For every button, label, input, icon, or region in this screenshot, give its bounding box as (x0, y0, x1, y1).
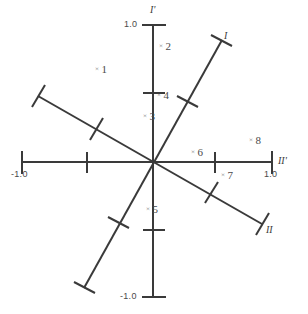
point-label-4: 4 (163, 89, 169, 101)
cross-icon: × (95, 65, 99, 73)
cross-icon: × (249, 136, 253, 144)
tick-diagonal-i-positive-end (211, 35, 232, 46)
axis-value-right: 1.0 (264, 169, 277, 179)
point-marker-5: ×5 (146, 203, 158, 215)
axis-value-top: 1.0 (124, 19, 137, 29)
cross-icon: × (146, 205, 150, 213)
point-marker-3: ×3 (143, 110, 155, 122)
point-marker-4: ×4 (157, 89, 169, 101)
cross-icon: × (191, 148, 195, 156)
point-label-7: 7 (227, 169, 233, 181)
point-label-2: 2 (165, 40, 171, 52)
star-plot-figure: 1.0 -1.0 -1.0 1.0 I' II' I II ×1 ×2 ×3 ×… (0, 0, 308, 314)
point-label-8: 8 (255, 134, 261, 146)
tick-diagonal-ii-negative-end (32, 85, 45, 107)
point-marker-8: ×8 (249, 134, 261, 146)
point-marker-7: ×7 (221, 169, 233, 181)
point-label-1: 1 (101, 63, 107, 75)
point-label-3: 3 (149, 110, 155, 122)
axis-name-i-prime: I' (150, 4, 155, 15)
point-marker-6: ×6 (191, 146, 203, 158)
plot-canvas (0, 0, 308, 314)
point-marker-2: ×2 (159, 40, 171, 52)
cross-icon: × (159, 42, 163, 50)
cross-icon: × (221, 171, 225, 179)
cross-icon: × (157, 91, 161, 99)
cross-icon: × (143, 112, 147, 120)
axis-name-ii-prime: II' (278, 155, 287, 166)
point-label-6: 6 (197, 146, 203, 158)
tick-diagonal-i-positive-half (177, 96, 198, 107)
axis-value-left: -1.0 (11, 169, 28, 179)
point-marker-1: ×1 (95, 63, 107, 75)
tick-diagonal-ii-negative-half (90, 118, 103, 140)
point-label-5: 5 (152, 203, 158, 215)
axis-name-i: I (224, 30, 227, 41)
axis-value-bottom: -1.0 (120, 291, 137, 301)
axis-name-ii: II (266, 224, 273, 235)
tick-diagonal-i-negative-end (74, 282, 95, 293)
